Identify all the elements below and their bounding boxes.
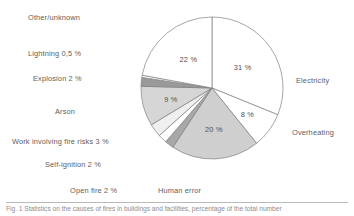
slice-label-self-ignition: Self-ignition 2 % <box>45 160 101 169</box>
slice-label-open-fire: Open fire 2 % <box>70 186 117 195</box>
figure-caption: Fig. 1 Statistics on the causes of fires… <box>6 205 350 213</box>
caption-divider <box>6 202 348 203</box>
pie-value-arson: 9 % <box>164 95 178 104</box>
slice-label-work-involving-fire-risks: Work involving fire risks 3 % <box>12 137 109 146</box>
slice-label-human-error: Human error <box>158 186 201 195</box>
pie-value-other-unknown: 22 % <box>180 55 198 64</box>
slice-label-overheating: Overheating <box>292 128 334 137</box>
pie-slices-group <box>141 17 283 159</box>
slice-label-electricity: Electricity <box>296 76 329 85</box>
pie-value-electricity: 31 % <box>234 63 252 72</box>
slice-label-arson: Arson <box>55 107 75 116</box>
figure-container: 31 %8 %20 %9 %22 % Other/unknown Lightni… <box>0 0 354 216</box>
pie-value-overheating: 8 % <box>241 110 255 119</box>
pie-value-human-error: 20 % <box>205 125 223 134</box>
pie-chart-svg: 31 %8 %20 %9 %22 % <box>0 0 354 200</box>
pie-slice-other-unknown[interactable] <box>142 17 212 88</box>
slice-label-explosion: Explosion 2 % <box>33 74 82 83</box>
slice-label-lightning: Lightning 0,5 % <box>28 49 81 58</box>
pie-chart: 31 %8 %20 %9 %22 % Other/unknown Lightni… <box>0 0 354 200</box>
slice-label-other-unknown: Other/unknown <box>28 13 80 22</box>
